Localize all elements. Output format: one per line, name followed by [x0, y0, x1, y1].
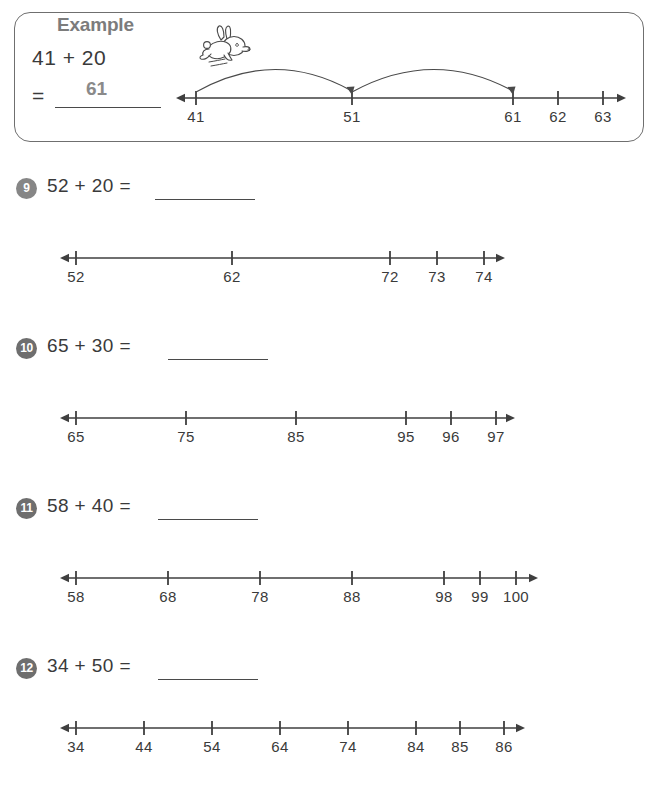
problem-equation: 52 + 20 = — [47, 175, 131, 197]
problem-equation: 65 + 30 = — [47, 335, 131, 357]
number-line-tick-label: 68 — [159, 588, 176, 605]
example-legend-label: Example — [51, 15, 141, 35]
number-line-tick-label: 95 — [397, 428, 414, 445]
number-line-tick-label: 99 — [471, 588, 488, 605]
number-line-tick-label: 58 — [67, 588, 84, 605]
example-equation-line1: 41 + 20 — [32, 46, 106, 70]
number-line-tick-label: 86 — [495, 738, 512, 755]
number-line-tick-label: 75 — [177, 428, 194, 445]
number-line-tick-label: 52 — [67, 268, 84, 285]
number-line-tick-label: 96 — [442, 428, 459, 445]
number-line-tick-label: 74 — [475, 268, 492, 285]
example-equation-line2: = — [32, 84, 44, 108]
problem-equation: 34 + 50 = — [47, 655, 131, 677]
problem-number-line: 3444546474848586 — [60, 718, 525, 738]
number-line-tick-label: 85 — [451, 738, 468, 755]
example-answer-line — [55, 107, 161, 108]
answer-blank[interactable] — [158, 519, 258, 520]
number-line-tick-label: 72 — [381, 268, 398, 285]
problem-number-line: 586878889899100 — [60, 568, 538, 588]
number-line-tick-label: 84 — [407, 738, 424, 755]
number-line-tick-label: 63 — [594, 108, 611, 125]
answer-blank[interactable] — [158, 679, 258, 680]
example-answer-value: 61 — [86, 78, 107, 100]
number-line-tick-label: 88 — [343, 588, 360, 605]
number-line-tick-label: 64 — [271, 738, 288, 755]
number-line-tick-label: 100 — [503, 588, 529, 605]
problem-number-badge: 10 — [16, 338, 37, 359]
number-line-tick-label: 51 — [343, 108, 360, 125]
number-line-tick-label: 61 — [504, 108, 521, 125]
problem-number-line: 657585959697 — [60, 408, 515, 428]
answer-blank[interactable] — [168, 359, 268, 360]
number-line-tick-label: 97 — [487, 428, 504, 445]
number-line-tick-label: 98 — [435, 588, 452, 605]
problem-number-badge: 11 — [16, 498, 37, 519]
number-line-tick-label: 41 — [187, 108, 204, 125]
problem-number-badge: 12 — [16, 658, 37, 679]
rabbit-hopping-icon — [196, 24, 266, 72]
problem-equation: 58 + 40 = — [47, 495, 131, 517]
number-line-tick-label: 74 — [339, 738, 356, 755]
number-line-tick-label: 54 — [203, 738, 220, 755]
number-line-tick-label: 78 — [251, 588, 268, 605]
number-line-tick-label: 44 — [135, 738, 152, 755]
number-line-tick-label: 34 — [67, 738, 84, 755]
example-number-line: 4151616263 — [176, 88, 626, 108]
number-line-tick-label: 73 — [428, 268, 445, 285]
number-line-tick-label: 85 — [287, 428, 304, 445]
number-line-tick-label: 62 — [223, 268, 240, 285]
number-line-tick-label: 65 — [67, 428, 84, 445]
problem-number-line: 5262727374 — [60, 248, 505, 268]
number-line-tick-label: 62 — [549, 108, 566, 125]
answer-blank[interactable] — [155, 199, 255, 200]
problem-number-badge: 9 — [16, 178, 37, 199]
